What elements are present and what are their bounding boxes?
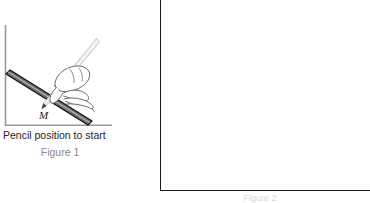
mass-label: M <box>38 109 49 121</box>
figure-1-number: Figure 1 <box>0 146 120 159</box>
figure-1-illustration: M <box>0 20 120 130</box>
figure-2-box <box>160 0 370 191</box>
figure-2-number: Figure 2 <box>160 193 360 203</box>
figure-1-caption: Pencil position to start <box>3 129 123 142</box>
figure-2-panel: Figure 2 <box>140 0 362 202</box>
figure-1-panel: M Pencil position to start Figure 1 <box>0 0 140 202</box>
